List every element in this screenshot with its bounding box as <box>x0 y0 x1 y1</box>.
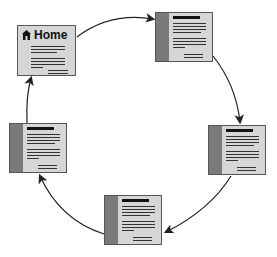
arrow-bottom-to-left <box>40 176 104 234</box>
home-title: Home <box>22 28 67 42</box>
page-sidebar <box>10 124 23 172</box>
content-page-node-left <box>9 123 67 173</box>
content-page-node-right <box>208 125 266 175</box>
home-page-node: Home <box>17 25 76 76</box>
home-label: Home <box>34 28 67 42</box>
home-icon <box>22 30 31 40</box>
arrow-top-right-to-right <box>213 56 240 122</box>
content-page-node-bottom <box>104 195 162 245</box>
content-page-node-top-right <box>155 12 213 62</box>
arrow-home-to-top-right <box>77 17 153 37</box>
page-sidebar <box>105 196 118 244</box>
page-sidebar <box>209 126 222 174</box>
arrow-left-to-home <box>27 78 31 123</box>
arrow-right-to-bottom <box>166 176 231 232</box>
page-sidebar <box>156 13 169 61</box>
